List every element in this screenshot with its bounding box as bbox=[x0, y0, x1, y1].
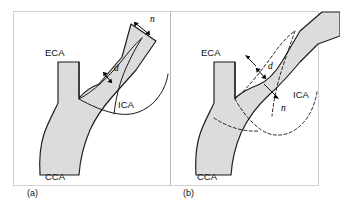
label-cca-a: CCA bbox=[45, 171, 66, 182]
label-n-a: n bbox=[150, 14, 155, 24]
label-d-a: d bbox=[114, 63, 119, 73]
label-ica-b: ICA bbox=[293, 89, 310, 100]
label-n-b: n bbox=[281, 103, 286, 113]
label-d-b: d bbox=[268, 61, 273, 71]
panel-marker-b: (b) bbox=[183, 188, 194, 198]
carotid-stenosis-figure: d n ECA CCA ICA (a) bbox=[0, 0, 340, 210]
label-cca-b: CCA bbox=[197, 171, 218, 182]
figure-container: d n ECA CCA ICA (a) bbox=[0, 0, 340, 210]
panel-a: d n ECA CCA ICA (a) bbox=[27, 14, 168, 198]
label-ica-a: ICA bbox=[118, 99, 135, 110]
panel-b: d n ECA CCA ICA (b) bbox=[183, 12, 340, 198]
label-eca-a: ECA bbox=[45, 47, 65, 58]
bulb-leader-arrowhead-b bbox=[245, 55, 250, 59]
panel-marker-a: (a) bbox=[27, 188, 38, 198]
label-eca-b: ECA bbox=[201, 47, 221, 58]
